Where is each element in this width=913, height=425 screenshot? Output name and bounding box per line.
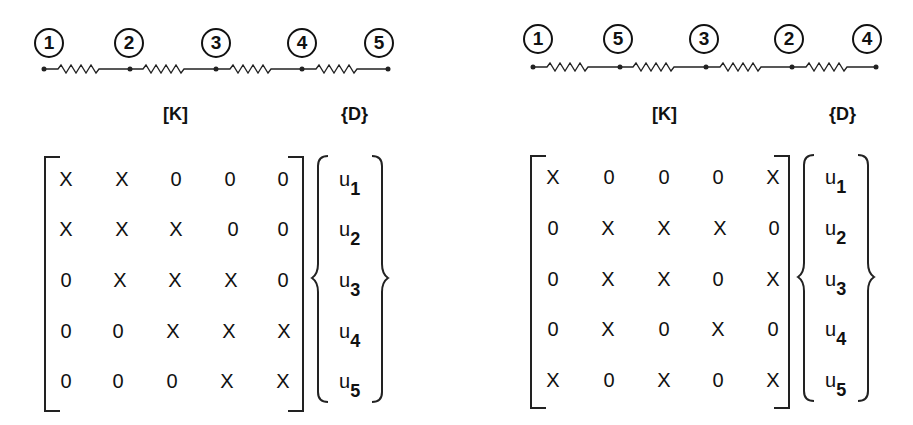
matrix-cell: X [105, 269, 135, 292]
node-label: 1 [34, 28, 64, 58]
matrix-cell: X [649, 268, 679, 291]
vector-entry: u1 [339, 168, 360, 196]
node-label: 5 [603, 24, 633, 54]
matrix-cell: X [703, 318, 733, 341]
vector-entry: u2 [339, 218, 360, 246]
matrix-cell: X [705, 217, 735, 240]
matrix-cell: X [593, 217, 623, 240]
matrix-cell: 0 [703, 268, 733, 291]
vector-entry: u1 [825, 166, 846, 194]
vector-entry: u5 [339, 370, 360, 398]
vector-entry: u3 [825, 268, 846, 296]
matrix-cell: X [107, 218, 137, 241]
matrix-cell: 0 [161, 168, 191, 191]
matrix-cell: 0 [268, 269, 298, 292]
matrix-cell: 0 [103, 320, 133, 343]
matrix-cell: X [758, 369, 788, 392]
matrix-cell: 0 [594, 369, 624, 392]
matrix-cell: 0 [157, 370, 187, 393]
node-label: 4 [287, 28, 317, 58]
matrix-cell: 0 [51, 370, 81, 393]
matrix-cell: X [758, 166, 788, 189]
matrix-cell: X [214, 320, 244, 343]
matrix-cell: 0 [758, 318, 788, 341]
node-label: 2 [774, 24, 804, 54]
matrix-cell: 0 [759, 217, 789, 240]
matrix-cell: 0 [215, 168, 245, 191]
vector-entry: u5 [825, 369, 846, 397]
node-label: 3 [201, 28, 231, 58]
node-label: 3 [689, 24, 719, 54]
matrix-cell: X [593, 318, 623, 341]
matrix-cell: X [216, 269, 246, 292]
matrix-cell: 0 [51, 320, 81, 343]
matrix-cell: 0 [268, 218, 298, 241]
matrix-cell: X [212, 370, 242, 393]
matrix-cell: X [758, 268, 788, 291]
matrix-cell: X [269, 320, 299, 343]
vector-entry: u2 [825, 217, 846, 245]
node-label: 4 [852, 24, 882, 54]
matrix-cell: 0 [703, 369, 733, 392]
stiffness-matrix-label: [K] [163, 104, 188, 125]
matrix-cell: X [161, 218, 191, 241]
vector-entry: u3 [339, 269, 360, 297]
matrix-cell: 0 [703, 166, 733, 189]
matrix-cell: 0 [649, 166, 679, 189]
matrix-cell: X [538, 369, 568, 392]
displacement-vector-label: {D} [829, 104, 856, 125]
spring-chain-diagram [456, 0, 913, 100]
panel-natural-numbering: 1 2 3 4 5 [K] {D} X X 0 0 0 X X X 0 0 0 … [0, 0, 456, 425]
node-label: 1 [523, 24, 553, 54]
matrix-cell: 0 [51, 269, 81, 292]
matrix-cell: 0 [538, 268, 568, 291]
matrix-cell: 0 [594, 166, 624, 189]
node-label: 5 [364, 28, 394, 58]
matrix-cell: X [649, 369, 679, 392]
displacement-vector-label: {D} [341, 104, 368, 125]
matrix-cell: 0 [538, 217, 568, 240]
matrix-cell: X [51, 218, 81, 241]
matrix-cell: X [593, 268, 623, 291]
matrix-cell: 0 [218, 218, 248, 241]
matrix-cell: X [158, 320, 188, 343]
vector-entry: u4 [339, 320, 360, 348]
matrix-cell: X [649, 217, 679, 240]
matrix-cell: 0 [268, 168, 298, 191]
matrix-cell: 0 [538, 318, 568, 341]
matrix-cell: 0 [649, 318, 679, 341]
stiffness-matrix-label: [K] [652, 104, 677, 125]
matrix-cell: X [268, 370, 298, 393]
matrix-cell: X [107, 168, 137, 191]
vector-entry: u4 [825, 318, 846, 346]
matrix-cell: 0 [103, 370, 133, 393]
matrix-cell: X [51, 168, 81, 191]
matrix-cell: X [160, 269, 190, 292]
matrix-cell: X [538, 166, 568, 189]
panel-scrambled-numbering: 1 5 3 2 4 [K] {D} X 0 0 0 X 0 X X X 0 0 … [456, 0, 913, 425]
node-label: 2 [114, 28, 144, 58]
